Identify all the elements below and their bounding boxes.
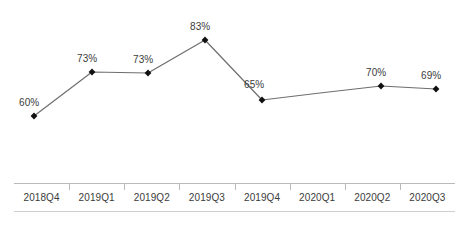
line-chart: 60%73%73%83%65%70%69% 2018Q42019Q12019Q2… <box>0 0 469 231</box>
plot-svg <box>0 0 469 178</box>
axis-tick-label: 2020Q3 <box>400 184 455 211</box>
axis-tick-label: 2019Q3 <box>179 184 234 211</box>
axis-tick-label: 2018Q4 <box>14 184 69 211</box>
data-point-marker <box>145 70 152 77</box>
axis-tick-label: 2020Q2 <box>345 184 400 211</box>
axis-tick-label: 2020Q1 <box>290 184 345 211</box>
marker-group <box>31 37 440 120</box>
data-point-label: 83% <box>190 22 210 32</box>
data-point-label: 73% <box>133 55 153 65</box>
data-point-marker <box>433 86 440 93</box>
data-point-label: 73% <box>77 54 97 64</box>
axis-tick-label: 2019Q2 <box>124 184 179 211</box>
data-point-marker <box>378 83 385 90</box>
data-point-label: 65% <box>244 80 264 90</box>
plot-area <box>0 0 469 178</box>
axis-tick-label: 2019Q4 <box>235 184 290 211</box>
axis-tick-label: 2019Q1 <box>69 184 124 211</box>
category-axis: 2018Q42019Q12019Q22019Q32019Q42020Q12020… <box>14 183 455 212</box>
data-point-label: 70% <box>366 68 386 78</box>
data-point-label: 69% <box>421 71 441 81</box>
series-line <box>34 40 436 116</box>
data-point-label: 60% <box>19 98 39 108</box>
